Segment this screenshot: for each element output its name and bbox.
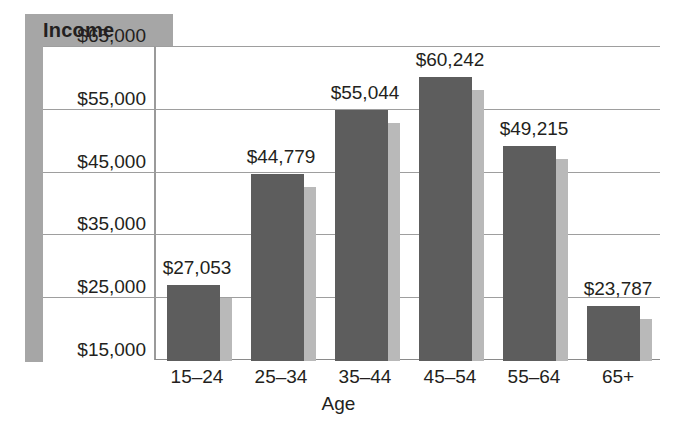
x-axis-title-label: Age: [0, 393, 677, 415]
plot-area: $27,053$44,779$55,044$60,242$49,215$23,7…: [155, 46, 660, 360]
gridline: [155, 234, 660, 235]
gridline: [155, 46, 660, 47]
y-axis-tick-label: $65,000: [77, 25, 146, 47]
y-label-separator: [43, 234, 154, 235]
bar-shadow: [388, 123, 400, 361]
y-axis-label-column: $65,000$55,000$45,000$35,000$25,000$15,0…: [43, 46, 155, 360]
y-axis-tick-label: $35,000: [77, 213, 146, 235]
bar-value-label: $60,242: [390, 49, 510, 71]
bar[interactable]: [587, 306, 640, 361]
y-axis-tick-label: $55,000: [77, 88, 146, 110]
bar[interactable]: [503, 146, 556, 361]
bar[interactable]: [251, 174, 304, 361]
bar-value-label: $55,044: [305, 82, 425, 104]
y-label-separator: [43, 172, 154, 173]
y-axis-tick-label: $15,000: [77, 339, 146, 361]
y-label-separator: [43, 46, 154, 47]
bar-shadow: [640, 319, 652, 361]
y-axis-tick-label: $25,000: [77, 276, 146, 298]
bar[interactable]: [167, 285, 220, 361]
bar-shadow: [220, 298, 232, 361]
bar[interactable]: [335, 110, 388, 361]
y-label-separator: [43, 109, 154, 110]
gridline: [155, 109, 660, 110]
y-axis-tick-label: $45,000: [77, 151, 146, 173]
bar[interactable]: [419, 77, 472, 361]
bar-value-label: $49,215: [474, 118, 594, 140]
y-axis-title-band: [25, 14, 43, 362]
x-axis-tick-label: 65+: [568, 366, 668, 388]
bar-shadow: [556, 159, 568, 361]
y-axis-line: [155, 46, 156, 360]
gridline: [155, 172, 660, 173]
income-by-age-bar-chart: Income $65,000$55,000$45,000$35,000$25,0…: [0, 0, 677, 437]
bar-value-label: $23,787: [558, 278, 677, 300]
bar-value-label: $44,779: [221, 146, 341, 168]
bar-shadow: [304, 187, 316, 361]
bottom-caption: [28, 426, 648, 437]
bar-value-label: $27,053: [137, 257, 257, 279]
y-label-separator: [43, 297, 154, 298]
